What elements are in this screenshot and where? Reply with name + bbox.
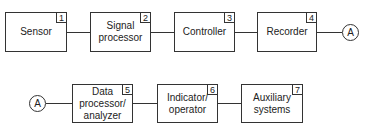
connector-line bbox=[151, 32, 174, 33]
connector-line bbox=[235, 32, 257, 33]
block-signal-processor: Signal processor 2 bbox=[90, 12, 151, 52]
block-recorder: Recorder 4 bbox=[257, 12, 317, 52]
block-label: Sensor bbox=[16, 26, 56, 38]
block-number: 7 bbox=[292, 84, 303, 95]
block-number: 1 bbox=[56, 12, 67, 23]
block-label: Controller bbox=[179, 26, 230, 38]
off-page-connector-a: A bbox=[29, 95, 46, 112]
block-sensor: Sensor 1 bbox=[5, 12, 67, 52]
connector-line bbox=[46, 103, 72, 104]
connector-line bbox=[317, 32, 342, 33]
connector-line bbox=[218, 103, 241, 104]
connector-line bbox=[67, 32, 90, 33]
block-indicator-operator: Indicator/ operator 6 bbox=[157, 84, 218, 123]
block-label: Signal processor bbox=[95, 20, 147, 44]
connector-line bbox=[133, 103, 157, 104]
block-label: Recorder bbox=[262, 26, 311, 38]
block-label: Indicator/ operator bbox=[163, 92, 212, 116]
block-number: 6 bbox=[207, 84, 218, 95]
block-data-processor-analyzer: Data processor/ analyzer 5 bbox=[72, 84, 133, 123]
block-number: 4 bbox=[306, 12, 317, 23]
block-number: 5 bbox=[122, 84, 133, 95]
block-controller: Controller 3 bbox=[174, 12, 235, 52]
block-number: 3 bbox=[224, 12, 235, 23]
block-number: 2 bbox=[140, 12, 151, 23]
block-label: Auxiliary systems bbox=[249, 92, 295, 116]
block-auxiliary-systems: Auxiliary systems 7 bbox=[241, 84, 303, 123]
off-page-connector-a: A bbox=[342, 24, 359, 41]
